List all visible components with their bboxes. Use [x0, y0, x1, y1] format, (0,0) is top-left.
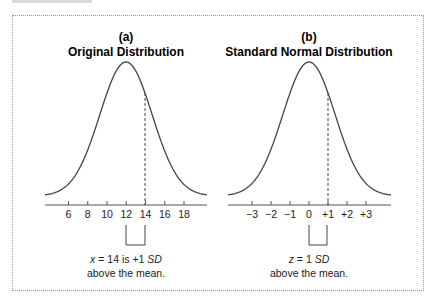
panel-b-bracket — [309, 225, 327, 245]
panel-b: (b) Standard Normal Distribution −3−2−10… — [225, 30, 392, 279]
axis-tick-label: 10 — [101, 208, 113, 220]
panel-a-bracket — [126, 225, 145, 245]
axis-tick-label: 6 — [66, 208, 72, 220]
panel-a-letter: (a) — [119, 30, 134, 44]
panel-a-caption-line1: x = 14 is +1 SD — [89, 253, 162, 265]
panel-b-bell-curve — [228, 62, 391, 195]
panel-a-ticks: 681012141618 — [66, 201, 190, 220]
panel-b-ticks: −3−2−10+1+2+3 — [246, 201, 372, 220]
axis-tick-label: 14 — [140, 208, 152, 220]
panel-b-title: Standard Normal Distribution — [225, 45, 392, 59]
axis-tick-label: +1 — [322, 208, 334, 220]
panel-b-letter: (b) — [301, 30, 316, 44]
axis-tick-label: 16 — [159, 208, 171, 220]
axis-tick-label: 18 — [178, 208, 190, 220]
panel-a-bell-curve — [45, 62, 207, 195]
axis-tick-label: −2 — [265, 208, 277, 220]
distribution-figure: (a) Original Distribution 681012141618 x… — [0, 0, 438, 306]
axis-tick-label: +3 — [360, 208, 372, 220]
panel-b-caption-line2: above the mean. — [270, 267, 348, 279]
axis-tick-label: 0 — [306, 208, 312, 220]
panel-b-caption-line1: z = 1 SD — [288, 253, 330, 265]
axis-tick-label: 12 — [120, 208, 132, 220]
panel-a-title: Original Distribution — [68, 45, 184, 59]
axis-tick-label: +2 — [341, 208, 353, 220]
axis-tick-label: 8 — [85, 208, 91, 220]
panel-a-caption-line2: above the mean. — [87, 267, 165, 279]
axis-tick-label: −1 — [284, 208, 296, 220]
panel-a: (a) Original Distribution 681012141618 x… — [45, 30, 207, 279]
axis-tick-label: −3 — [246, 208, 258, 220]
